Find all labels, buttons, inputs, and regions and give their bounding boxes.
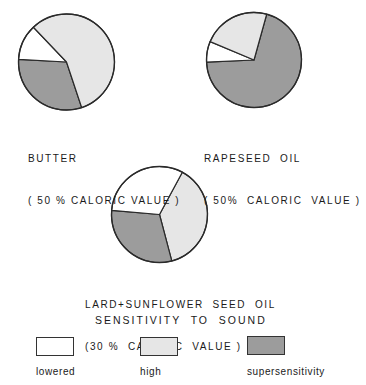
legend-label-high: high xyxy=(140,366,161,377)
caption-lard-title: LARD+SUNFLOWER SEED OIL xyxy=(85,298,276,312)
legend-label-supersensitivity: supersensitivity xyxy=(247,366,325,377)
legend-title: SENSITIVITY TO SOUND xyxy=(95,314,267,326)
pie-butter xyxy=(18,14,114,110)
caption-rapeseed-title: RAPESEED OIL xyxy=(204,152,361,166)
pie-rapeseed-oil xyxy=(207,13,302,108)
caption-rapeseed: RAPESEED OIL ( 50% CALORIC VALUE ) xyxy=(204,124,361,222)
legend-swatch-high xyxy=(140,337,178,356)
caption-butter: BUTTER ( 50 % CALORIC VALUE ) xyxy=(28,124,180,222)
caption-butter-title: BUTTER xyxy=(28,152,180,166)
legend-label-lowered: lowered xyxy=(36,366,75,377)
legend-swatch-lowered xyxy=(36,337,74,356)
legend-swatch-supersensitivity xyxy=(247,336,285,355)
caption-butter-subtitle: ( 50 % CALORIC VALUE ) xyxy=(28,194,180,208)
caption-rapeseed-subtitle: ( 50% CALORIC VALUE ) xyxy=(204,194,361,208)
